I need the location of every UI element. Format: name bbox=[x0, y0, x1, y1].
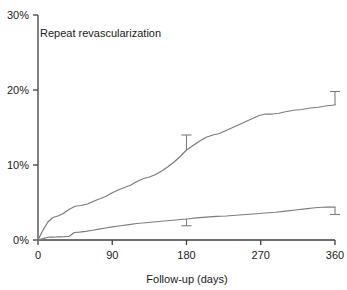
x-axis-title: Follow-up (days) bbox=[146, 273, 227, 285]
x-tick-label: 360 bbox=[326, 249, 344, 261]
y-tick-label: 20% bbox=[7, 84, 29, 96]
x-tick-label: 90 bbox=[106, 249, 118, 261]
panel-title: Repeat revascularization bbox=[40, 27, 161, 39]
error-bar bbox=[182, 219, 192, 226]
axes-layer: 0%10%20%30%090180270360 bbox=[7, 9, 344, 261]
x-tick-label: 180 bbox=[177, 249, 195, 261]
error-bar bbox=[330, 207, 340, 215]
cumulative-incidence-chart: 0%10%20%30%090180270360 Repeat revascula… bbox=[0, 0, 347, 290]
y-tick-label: 30% bbox=[7, 9, 29, 21]
y-tick-label: 10% bbox=[7, 159, 29, 171]
y-tick-label: 0% bbox=[13, 234, 29, 246]
chart-container: 0%10%20%30%090180270360 Repeat revascula… bbox=[0, 0, 347, 290]
error-bars-layer bbox=[182, 92, 341, 226]
error-bar bbox=[330, 92, 340, 106]
x-tick-label: 270 bbox=[252, 249, 270, 261]
x-tick-label: 0 bbox=[35, 249, 41, 261]
